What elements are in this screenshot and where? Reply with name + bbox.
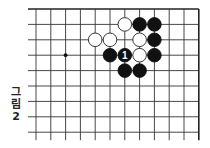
star-point-icon <box>64 53 68 57</box>
board-grid <box>28 9 199 140</box>
white-stone <box>103 33 117 47</box>
white-stone <box>133 33 147 47</box>
black-stone <box>103 48 117 62</box>
white-stone <box>88 33 102 47</box>
star-points <box>64 53 68 57</box>
black-stone <box>133 18 147 32</box>
white-stone <box>133 48 147 62</box>
go-board-diagram: 1 <box>0 0 210 148</box>
white-stone <box>118 18 132 32</box>
move-number-label: 1 <box>122 50 128 61</box>
black-stone <box>148 18 162 32</box>
black-stone <box>148 33 162 47</box>
black-stone <box>118 64 132 78</box>
black-stone: 1 <box>118 48 132 62</box>
figure-caption-number: 2 <box>8 111 24 123</box>
black-stone <box>148 48 162 62</box>
black-stone <box>133 64 147 78</box>
